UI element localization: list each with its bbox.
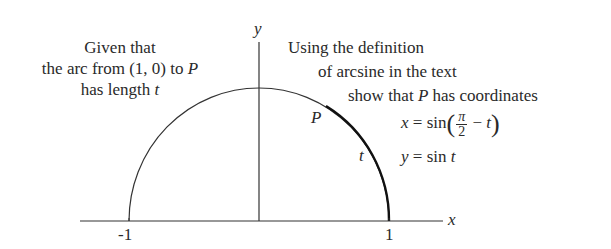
- equation-y: y = sin t: [401, 146, 455, 167]
- tick-label-minus-1: -1: [118, 224, 132, 245]
- equation-x: x = sin(π2 − t): [401, 108, 500, 139]
- arc-t-label: t: [359, 145, 364, 166]
- right-note-line2: of arcsine in the text: [318, 61, 457, 82]
- pi-over-2-fraction: π2: [456, 110, 467, 139]
- left-note: Given that the arc from (1, 0) to P has …: [15, 37, 225, 100]
- right-note-line3: show that P has coordinates: [348, 85, 538, 106]
- x-axis-label: x: [448, 209, 456, 230]
- tick-label-1: 1: [385, 224, 394, 245]
- left-note-line1: Given that: [15, 37, 225, 58]
- y-axis-label: y: [254, 18, 262, 39]
- left-note-line2: the arc from (1, 0) to P: [15, 58, 225, 79]
- right-note-line1: Using the definition: [288, 37, 424, 58]
- point-p-label: P: [311, 107, 321, 128]
- left-note-line3: has length t: [15, 79, 225, 100]
- arc-length-t: [326, 106, 389, 221]
